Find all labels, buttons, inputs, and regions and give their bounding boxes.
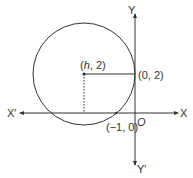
center-point — [82, 72, 85, 75]
x-positive-label: X — [180, 107, 188, 119]
origin-label: O — [137, 116, 146, 128]
tangent-point-label: (0, 2) — [138, 69, 164, 81]
x-intercept-point — [115, 112, 118, 115]
x-negative-label: X′ — [7, 107, 16, 119]
center-label: (h, 2) — [80, 59, 106, 71]
y-negative-label: Y′ — [137, 163, 146, 175]
circle-tangent-diagram: (h, 2) (0, 2) (−1, 0) O X X′ Y Y′ — [0, 0, 193, 178]
y-positive-label: Y — [128, 4, 136, 16]
x-intercept-label: (−1, 0) — [106, 121, 138, 133]
